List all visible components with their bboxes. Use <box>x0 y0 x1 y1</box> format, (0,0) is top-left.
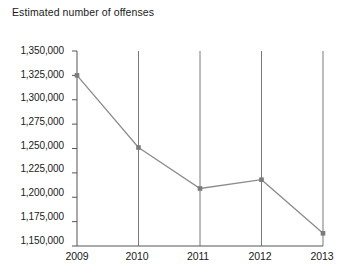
data-point-2011 <box>198 186 203 191</box>
data-point-2010 <box>136 145 141 150</box>
data-point-2009 <box>75 73 80 78</box>
data-point-2012 <box>259 177 264 182</box>
plot-area <box>0 0 350 278</box>
line-chart: Estimated number of offenses 1,350,000 1… <box>0 0 350 278</box>
y-axis-ticks <box>72 51 77 246</box>
data-point-2013 <box>321 231 326 236</box>
gridlines <box>139 51 324 246</box>
